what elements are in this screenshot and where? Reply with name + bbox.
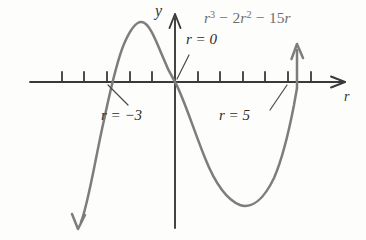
annotation-root-zero: r = 0 <box>186 32 217 47</box>
polynomial-expression-label: r3 − 2r2 − 15r <box>204 10 290 26</box>
y-axis-label: y <box>155 3 162 19</box>
leader-line-root-five <box>270 85 287 110</box>
leader-line-root-negative-three <box>108 85 128 105</box>
cubic-curve <box>72 22 303 229</box>
graph-canvas <box>0 0 366 240</box>
r-axis-label: r <box>344 90 349 104</box>
expression-operator-1: − <box>215 9 232 26</box>
annotation-root-negative-three: r = −3 <box>101 108 142 123</box>
expression-base-3: r <box>284 9 290 26</box>
annotation-root-five: r = 5 <box>219 108 250 123</box>
curve-lower-left-arrowhead <box>72 214 85 229</box>
r-axis-ticks <box>62 72 311 82</box>
expression-coefficient-3: 15 <box>269 9 285 26</box>
cubic-function-graph-figure: r3 − 2r2 − 15r y r r = 0 r = −3 r = 5 <box>0 0 366 240</box>
expression-operator-2: − <box>251 9 268 26</box>
y-axis <box>170 14 181 228</box>
leader-line-root-zero <box>177 55 189 79</box>
